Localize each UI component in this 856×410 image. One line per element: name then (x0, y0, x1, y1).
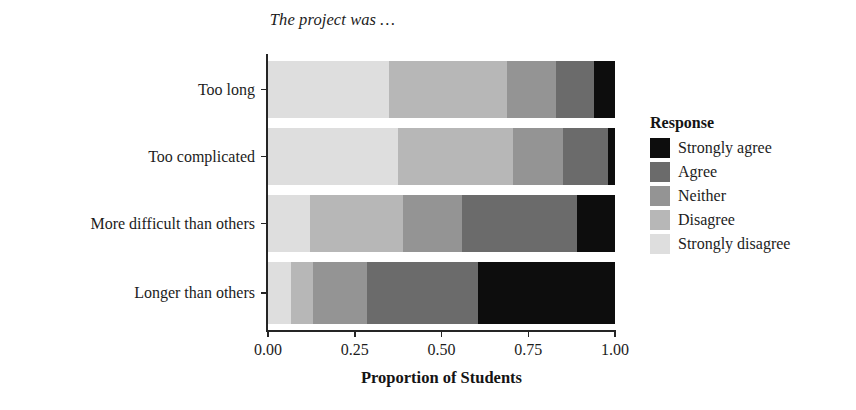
bar-segment[interactable] (507, 61, 556, 118)
plot-area (268, 56, 615, 330)
chart-figure: The project was … Too longToo complicate… (0, 0, 856, 410)
chart-title: The project was … (225, 10, 440, 30)
bar-segment[interactable] (478, 262, 615, 324)
bar-segment[interactable] (513, 128, 563, 185)
bar-segment[interactable] (563, 128, 608, 185)
bar-segment[interactable] (556, 61, 594, 118)
bar-row[interactable] (268, 61, 615, 118)
legend-swatch-icon (650, 138, 670, 158)
y-axis-tick-label: More difficult than others (90, 216, 255, 232)
y-axis-tick (261, 292, 267, 294)
bar-row[interactable] (268, 195, 615, 252)
x-axis-title: Proportion of Students (268, 368, 615, 388)
legend-title: Response (650, 114, 790, 132)
chart-legend: Response Strongly agreeAgreeNeitherDisag… (650, 114, 790, 256)
bar-segment[interactable] (462, 195, 577, 252)
x-axis-tick-label: 0.25 (341, 341, 369, 359)
legend-swatch-icon (650, 186, 670, 206)
x-axis-tick (614, 331, 616, 337)
bar-segment[interactable] (398, 128, 513, 185)
x-axis-tick (441, 331, 443, 337)
legend-label: Disagree (678, 212, 735, 228)
y-axis-tick-label: Too complicated (148, 149, 255, 165)
legend-label: Agree (678, 164, 717, 180)
legend-swatch-icon (650, 162, 670, 182)
x-axis-tick (354, 331, 356, 337)
legend-item[interactable]: Neither (650, 184, 790, 208)
x-axis-tick-label: 0.75 (514, 341, 542, 359)
bar-segment[interactable] (310, 195, 404, 252)
legend-item[interactable]: Strongly disagree (650, 232, 790, 256)
legend-item[interactable]: Agree (650, 160, 790, 184)
legend-item[interactable]: Strongly agree (650, 136, 790, 160)
y-axis-tick (261, 223, 267, 225)
bar-segment[interactable] (268, 128, 398, 185)
x-axis-tick (267, 331, 269, 337)
y-axis-tick (261, 89, 267, 91)
x-axis-tick-label: 0.00 (254, 341, 282, 359)
bar-segment[interactable] (367, 262, 478, 324)
bar-segment[interactable] (594, 61, 615, 118)
bar-row[interactable] (268, 128, 615, 185)
legend-swatch-icon (650, 210, 670, 230)
legend-label: Neither (678, 188, 726, 204)
bar-segment[interactable] (389, 61, 507, 118)
bar-segment[interactable] (313, 262, 367, 324)
bar-row[interactable] (268, 262, 615, 324)
bar-segment[interactable] (268, 61, 389, 118)
x-axis-tick-label: 0.50 (428, 341, 456, 359)
legend-items: Strongly agreeAgreeNeitherDisagreeStrong… (650, 136, 790, 256)
y-axis-tick-label: Too long (198, 82, 255, 98)
bar-segment[interactable] (268, 195, 310, 252)
x-axis-tick (528, 331, 530, 337)
bar-segment[interactable] (403, 195, 462, 252)
y-axis-tick (261, 156, 267, 158)
bar-segment[interactable] (577, 195, 615, 252)
bar-segment[interactable] (268, 262, 291, 324)
legend-item[interactable]: Disagree (650, 208, 790, 232)
legend-label: Strongly agree (678, 140, 772, 156)
y-axis-tick-label: Longer than others (134, 285, 255, 301)
bar-segment[interactable] (291, 262, 314, 324)
bar-segment[interactable] (608, 128, 615, 185)
legend-swatch-icon (650, 234, 670, 254)
legend-label: Strongly disagree (678, 236, 790, 252)
x-axis-tick-label: 1.00 (601, 341, 629, 359)
